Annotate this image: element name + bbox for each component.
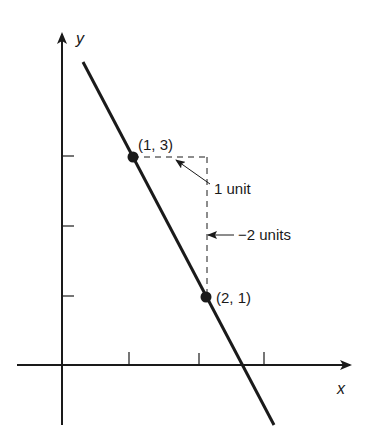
point-2-1 [201, 292, 212, 303]
point-label-1-3: (1, 3) [138, 136, 173, 153]
point-label-2-1: (2, 1) [216, 289, 251, 306]
graph-line [83, 62, 274, 425]
y-axis-label: y [75, 30, 85, 47]
y-ticks [62, 156, 74, 296]
x-ticks [129, 352, 264, 365]
x-axis-label: x [336, 380, 346, 397]
slope-diagram: y x (1, 3) (2, 1) 1 unit −2 units [0, 0, 373, 447]
run-annotation-arrow [176, 160, 210, 184]
diagram-canvas: y x (1, 3) (2, 1) 1 unit −2 units [0, 0, 373, 447]
run-annotation-label: 1 unit [214, 180, 252, 197]
point-1-3 [128, 152, 139, 163]
rise-annotation-label: −2 units [238, 226, 291, 243]
